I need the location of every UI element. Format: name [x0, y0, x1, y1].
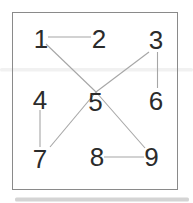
node-1: 1 — [34, 24, 48, 54]
node-8: 8 — [90, 142, 104, 172]
node-4: 4 — [33, 85, 47, 115]
node-5: 5 — [88, 87, 102, 117]
graph-figure: 123456789 — [0, 0, 193, 203]
node-6: 6 — [149, 86, 163, 116]
artifact-band-2 — [15, 198, 189, 202]
graph-canvas: 123456789 — [0, 0, 193, 203]
node-3: 3 — [149, 25, 163, 55]
node-9: 9 — [144, 142, 158, 172]
node-2: 2 — [92, 24, 106, 54]
artifact-band-1 — [0, 68, 193, 72]
node-7: 7 — [33, 144, 47, 174]
